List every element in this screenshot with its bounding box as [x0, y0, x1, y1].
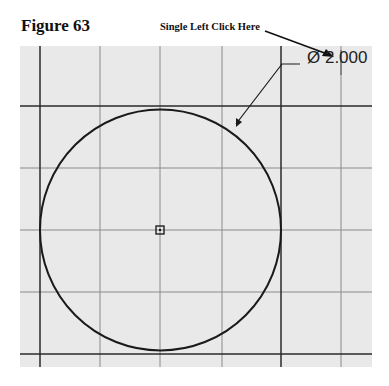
grid-major — [20, 46, 372, 367]
dimension-leader[interactable] — [236, 64, 300, 124]
grid-minor — [20, 46, 372, 367]
diameter-dimension[interactable]: Ø 2.000 — [307, 48, 368, 68]
